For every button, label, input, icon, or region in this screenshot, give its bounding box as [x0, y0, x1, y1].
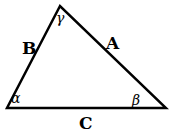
side-a-label: A: [105, 33, 120, 53]
side-b-label: B: [22, 38, 36, 58]
angle-alpha-label: α: [11, 90, 21, 106]
side-c-label: C: [79, 113, 93, 131]
angle-beta-label: β: [131, 92, 140, 108]
triangle-diagram: B A C γ α β: [0, 0, 169, 131]
angle-gamma-label: γ: [56, 10, 65, 26]
